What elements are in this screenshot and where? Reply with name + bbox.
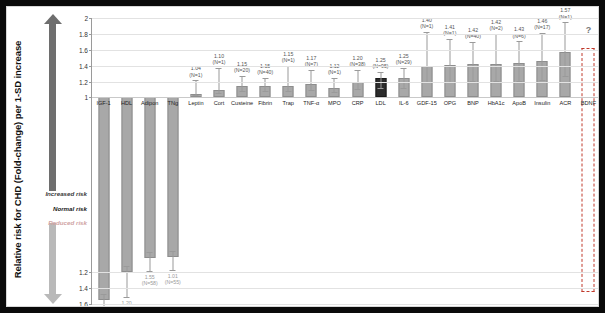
y-axis-tick: 1.2: [66, 78, 88, 85]
error-bar: [242, 76, 243, 93]
bar-group[interactable]: 1.12(N=1)MPO: [323, 18, 346, 304]
bar[interactable]: [121, 97, 132, 272]
bar-unknown[interactable]: [582, 48, 595, 292]
error-bar: [426, 32, 427, 83]
bar-value-label: 1.10(N=1): [212, 53, 225, 66]
x-axis-label: MPO: [328, 100, 341, 106]
error-bar: [542, 33, 543, 81]
legend-increased-risk: Increased risk: [45, 190, 87, 197]
bar-group[interactable]: 1.20(N=58)HDL: [115, 18, 138, 304]
error-bar: [265, 78, 266, 93]
bar-value-label: 1.04(N=1): [189, 65, 202, 78]
error-bar: [288, 66, 289, 93]
bar-group[interactable]: 1.17(N=7)TNF-α: [300, 18, 323, 304]
gridline: [92, 272, 599, 273]
gridline: [92, 97, 599, 98]
y-axis-tick: 1.4: [66, 62, 88, 69]
bar-group[interactable]: 1.42(N=2)HbA1c: [485, 18, 508, 304]
x-axis-label: Trap: [283, 100, 294, 106]
y-axis-tick-mark: [89, 272, 92, 273]
bar-group[interactable]: 1.57(N=1)ACR: [554, 18, 577, 304]
bar-value-label: 1.15(N=1): [282, 51, 295, 64]
bar-value-label: 1.15(N=40): [257, 63, 273, 76]
y-axis-tick-mark: [89, 304, 92, 305]
screenshot-frame: Relative risk for CHD (Fold-change) per …: [0, 0, 605, 313]
legend-reduced-risk: Reduced risk: [48, 219, 87, 226]
bar-group[interactable]: 1.42(N=40)BNP: [461, 18, 484, 304]
y-axis-tick: 1.6: [66, 301, 88, 308]
x-axis-label: Fibrin: [258, 100, 272, 106]
error-bar: [357, 70, 358, 91]
x-axis-label: ApoB: [512, 100, 526, 106]
y-axis-tick-mark: [89, 82, 92, 83]
error-bar: [519, 41, 520, 82]
y-axis-tick-mark: [89, 18, 92, 19]
error-bar: [380, 72, 381, 89]
gridline: [92, 288, 599, 289]
x-axis-label: HDL: [121, 100, 132, 106]
bar-value-label: 1.15(N=20): [234, 61, 250, 74]
plot-area: 1.55(N=3)IGF-11.20(N=58)HDL1.55(N=58)Adi…: [91, 18, 599, 304]
bar-group[interactable]: 1.41(N=1)OPG: [438, 18, 461, 304]
bar-group[interactable]: 1.25(N=95)LDL: [369, 18, 392, 304]
x-axis-label: IL-6: [399, 100, 409, 106]
y-axis-tick-mark: [89, 34, 92, 35]
bar-value-label: 1.42(N=2): [490, 19, 503, 32]
bar-group[interactable]: 1.40(N=1)GDF-15: [415, 18, 438, 304]
bar-value-label: 1.01(N=55): [165, 273, 181, 286]
bar-group[interactable]: 1.15(N=40)Fibrin: [254, 18, 277, 304]
risk-legend: Increased risk Normal risk Reduced risk: [27, 15, 89, 307]
x-axis-label: CRP: [352, 100, 364, 106]
y-axis-tick: 1.4: [66, 285, 88, 292]
bar[interactable]: [144, 97, 155, 257]
y-axis-tick-mark: [89, 66, 92, 67]
bar-group[interactable]: 1.55(N=3)IGF-1: [92, 18, 115, 304]
x-axis-label: Insulin: [534, 100, 550, 106]
bar-value-label: 1.25(N=29): [396, 53, 412, 66]
gridline: [92, 50, 599, 51]
bar-group[interactable]: 1.01(N=55)TNg: [161, 18, 184, 304]
y-axis-tick: 2: [66, 15, 88, 22]
bar-value-label: 1.43(N=6): [513, 26, 526, 39]
bar-group[interactable]: ?BDNF: [577, 18, 599, 304]
y-axis-tick: 1: [66, 94, 88, 101]
x-axis-label: IGF-1: [96, 100, 110, 106]
gridline: [92, 18, 599, 19]
legend-normal-risk: Normal risk: [53, 205, 87, 212]
x-axis-label: TNg: [168, 100, 179, 106]
y-axis-title: Relative risk for CHD (Fold-change) per …: [9, 13, 27, 305]
error-bar: [195, 80, 196, 96]
y-axis-tick-mark: [89, 50, 92, 51]
bar-group[interactable]: 1.25(N=29)IL-6: [392, 18, 415, 304]
gridline: [92, 82, 599, 83]
error-bar: [149, 252, 150, 272]
bar-group[interactable]: 1.43(N=6)ApoB: [508, 18, 531, 304]
x-axis-label: Leptin: [188, 100, 203, 106]
y-axis-tick-mark: [89, 288, 92, 289]
x-axis-label: LDL: [375, 100, 385, 106]
bar[interactable]: [98, 97, 109, 300]
x-axis-label: HbA1c: [488, 100, 505, 106]
x-axis-label: GDF-15: [417, 100, 437, 106]
bar-group[interactable]: 1.15(N=1)Trap: [277, 18, 300, 304]
bar-group[interactable]: 1.55(N=58)Adipon: [138, 18, 161, 304]
bar-group[interactable]: 1.10(N=1)Cort: [207, 18, 230, 304]
gridline: [92, 66, 599, 67]
y-axis-tick-mark: [89, 97, 92, 98]
x-axis-label: Cort: [214, 100, 225, 106]
bar[interactable]: [167, 97, 178, 257]
bar-series: 1.55(N=3)IGF-11.20(N=58)HDL1.55(N=58)Adi…: [92, 18, 599, 304]
x-axis-label: Custeine: [231, 100, 253, 106]
x-axis-label: Adipon: [141, 100, 158, 106]
increased-risk-arrow-icon: [49, 23, 56, 191]
bar-group[interactable]: 1.04(N=1)Leptin: [184, 18, 207, 304]
bar-group[interactable]: 1.15(N=20)Custeine: [231, 18, 254, 304]
error-bar: [449, 39, 450, 83]
bar-group[interactable]: 1.20(N=38)CRP: [346, 18, 369, 304]
error-bar: [334, 78, 335, 93]
bar-group[interactable]: 1.46(N=17)Insulin: [531, 18, 554, 304]
bar-value-label: 1.55(N=58): [142, 274, 158, 287]
y-axis-tick: 1.6: [66, 46, 88, 53]
y-axis-tick: 1.2: [66, 269, 88, 276]
x-axis-label: ACR: [559, 100, 571, 106]
